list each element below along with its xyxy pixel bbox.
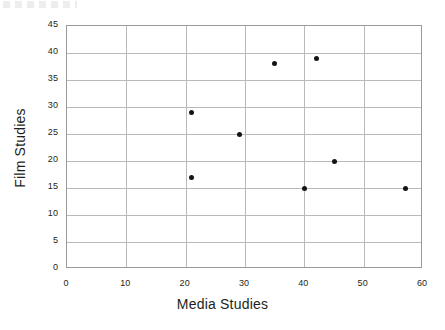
gridline-vertical bbox=[304, 26, 305, 267]
x-tick-label: 20 bbox=[170, 278, 200, 288]
data-point bbox=[272, 61, 277, 66]
gridline-horizontal bbox=[67, 80, 421, 81]
y-tick-label: 35 bbox=[28, 73, 58, 83]
y-tick-label: 15 bbox=[28, 181, 58, 191]
y-tick-label: 45 bbox=[28, 19, 58, 29]
gridline-horizontal bbox=[67, 107, 421, 108]
data-point bbox=[314, 56, 319, 61]
data-point bbox=[403, 186, 408, 191]
gridline-horizontal bbox=[67, 188, 421, 189]
y-tick-label: 20 bbox=[28, 154, 58, 164]
data-point bbox=[189, 110, 194, 115]
y-axis-title: Film Studies bbox=[12, 83, 28, 213]
data-point bbox=[332, 159, 337, 164]
gridline-vertical bbox=[126, 26, 127, 267]
x-tick-label: 40 bbox=[288, 278, 318, 288]
plot-area bbox=[66, 25, 422, 268]
gridline-horizontal bbox=[67, 53, 421, 54]
data-point bbox=[237, 132, 242, 137]
y-tick-label: 30 bbox=[28, 100, 58, 110]
x-tick-label: 30 bbox=[229, 278, 259, 288]
y-tick-label: 40 bbox=[28, 46, 58, 56]
gridline-horizontal bbox=[67, 161, 421, 162]
gridline-vertical bbox=[245, 26, 246, 267]
y-tick-label: 10 bbox=[28, 208, 58, 218]
y-tick-label: 25 bbox=[28, 127, 58, 137]
y-tick-label: 0 bbox=[28, 262, 58, 272]
x-tick-label: 0 bbox=[51, 278, 81, 288]
x-tick-label: 60 bbox=[407, 278, 437, 288]
gridline-vertical bbox=[364, 26, 365, 267]
gridline-horizontal bbox=[67, 134, 421, 135]
data-point bbox=[189, 175, 194, 180]
gridline-horizontal bbox=[67, 242, 421, 243]
data-point bbox=[302, 186, 307, 191]
gridline-horizontal bbox=[67, 215, 421, 216]
x-tick-label: 10 bbox=[110, 278, 140, 288]
scatter-plot-figure: 051015202530354045 0102030405060 Film St… bbox=[0, 0, 445, 330]
y-tick-label: 5 bbox=[28, 235, 58, 245]
x-axis-title: Media Studies bbox=[0, 296, 445, 312]
x-tick-label: 50 bbox=[348, 278, 378, 288]
gridline-vertical bbox=[186, 26, 187, 267]
